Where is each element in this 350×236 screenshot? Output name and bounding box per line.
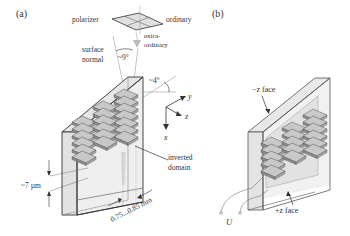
panel-b-label: (b) — [212, 8, 224, 20]
ordinary-label: ordinary — [166, 15, 192, 24]
axis-y-label: y — [187, 92, 192, 101]
electrode-terminal-icon — [220, 212, 223, 215]
inverted-label-2: domain — [168, 163, 191, 172]
electrode-terminal-icon — [239, 212, 242, 215]
beam-arrow-icon — [133, 40, 141, 48]
panel-a-label: (a) — [16, 8, 27, 20]
extraordinary-label-2: ordinary — [144, 41, 168, 49]
axes-icon — [163, 96, 186, 130]
inverted-label-1: inverted — [168, 153, 193, 162]
polarizer-label: polarizer — [72, 15, 99, 24]
minus-z-face-label: −z face — [252, 85, 276, 94]
diagram-canvas: (a) polarizer ordinary extra- ordinary s… — [0, 0, 350, 236]
surface-normal-label-2: normal — [82, 55, 103, 64]
thickness-label: ~7 µm — [21, 181, 41, 190]
panel-a: (a) polarizer ordinary extra- ordinary s… — [16, 6, 193, 224]
plus-z-face-label: +z face — [275, 206, 299, 215]
axis-x-label: x — [163, 133, 168, 142]
voltage-label: U — [226, 217, 233, 227]
angle-9-label: ~9° — [118, 53, 129, 62]
surface-normal-label-1: surface — [82, 45, 104, 54]
angle-4-label: ~4° — [149, 76, 160, 85]
panel-b: (b) −z face +z face U — [212, 8, 330, 227]
extraordinary-label-1: extra- — [144, 32, 161, 40]
polarizer-icon — [112, 6, 163, 34]
axis-z-label: z — [184, 112, 189, 121]
